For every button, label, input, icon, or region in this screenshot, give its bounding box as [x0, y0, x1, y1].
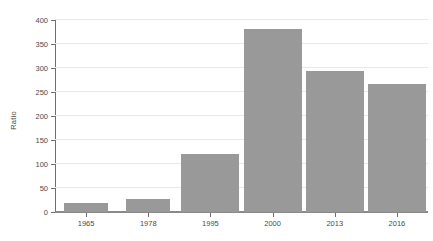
x-axis-tick	[397, 213, 398, 217]
x-axis-tick-label: 1995	[202, 219, 219, 228]
y-axis-tick	[51, 116, 55, 117]
bar-1965[interactable]	[64, 203, 108, 212]
y-axis-tick-label: 50	[22, 184, 48, 193]
y-axis-tick-label: 300	[22, 64, 48, 73]
x-axis-tick-label: 2013	[326, 219, 343, 228]
y-axis-tick-label: 150	[22, 136, 48, 145]
bar-1978[interactable]	[126, 199, 170, 212]
bar-2013[interactable]	[306, 71, 364, 212]
x-axis-tick-label: 1978	[140, 219, 157, 228]
x-axis-tick-label: 2016	[389, 219, 406, 228]
x-axis-tick	[148, 213, 149, 217]
y-axis-tick-labels: 050100150200250300350400	[18, 0, 48, 241]
y-axis-tick-label: 250	[22, 88, 48, 97]
y-axis-tick-label: 100	[22, 160, 48, 169]
y-axis-tick	[51, 20, 55, 21]
y-axis-tick-label: 350	[22, 40, 48, 49]
y-axis-title-label: Ratio	[9, 111, 18, 130]
y-axis-tick-label: 400	[22, 16, 48, 25]
x-axis-tick-label: 2000	[264, 219, 281, 228]
plot-area	[55, 20, 428, 212]
x-axis-tick	[210, 213, 211, 217]
x-axis-tick	[86, 213, 87, 217]
y-axis-tick-label: 200	[22, 112, 48, 121]
x-axis-tick	[335, 213, 336, 217]
y-axis-tick	[51, 212, 55, 213]
y-axis-tick	[51, 92, 55, 93]
bar-1995[interactable]	[181, 154, 239, 212]
gridline	[55, 67, 428, 68]
y-axis-tick	[51, 140, 55, 141]
y-axis-tick	[51, 68, 55, 69]
gridline	[55, 19, 428, 20]
bar-2016[interactable]	[368, 84, 426, 212]
y-axis-tick	[51, 164, 55, 165]
y-axis-tick	[51, 188, 55, 189]
bar-chart: Ratio 050100150200250300350400 196519781…	[0, 0, 433, 241]
y-axis-tick	[51, 44, 55, 45]
x-axis-tick	[273, 213, 274, 217]
gridline	[55, 43, 428, 44]
y-axis-tick-label: 0	[22, 208, 48, 217]
x-axis-tick-label: 1965	[78, 219, 95, 228]
bar-2000[interactable]	[244, 29, 302, 212]
x-axis-line	[55, 212, 428, 213]
